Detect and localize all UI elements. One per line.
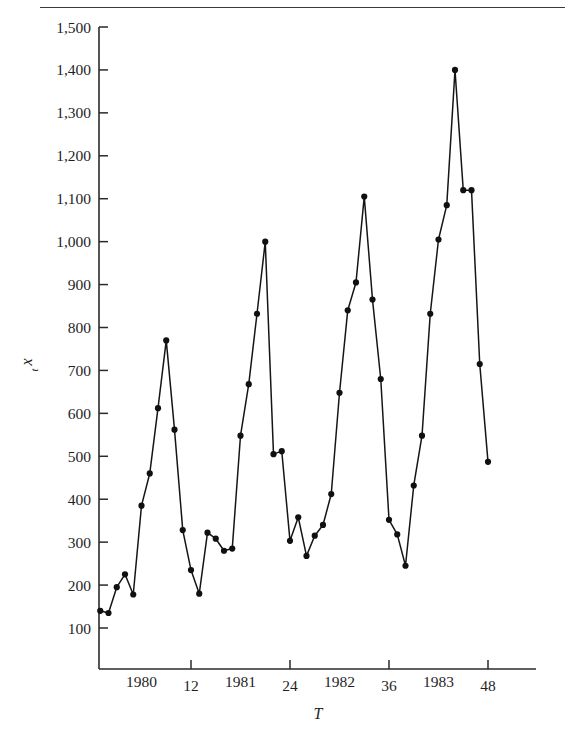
- data-point: [369, 297, 375, 303]
- data-point: [328, 491, 334, 497]
- data-point: [229, 545, 235, 551]
- y-tick-label: 1,100: [56, 190, 91, 207]
- y-tick-label: 700: [68, 362, 92, 379]
- data-point: [427, 311, 433, 317]
- y-tick-label: 1,000: [56, 233, 91, 250]
- data-point: [213, 536, 219, 542]
- data-point: [460, 187, 466, 193]
- x-axis-ticks: [191, 660, 488, 669]
- data-point: [221, 548, 227, 554]
- data-point: [419, 433, 425, 439]
- data-point: [378, 376, 384, 382]
- data-point: [320, 522, 326, 528]
- data-point: [485, 459, 491, 465]
- data-point: [188, 567, 194, 573]
- data-point: [386, 517, 392, 523]
- data-point: [402, 563, 408, 569]
- y-tick-label: 1,400: [56, 61, 91, 78]
- x-tick-label: 36: [381, 677, 397, 694]
- y-tick-label: 600: [68, 405, 92, 422]
- data-point: [435, 236, 441, 242]
- data-point: [147, 470, 153, 476]
- data-point: [155, 405, 161, 411]
- x-year-label: 1981: [225, 673, 256, 690]
- x-axis-title: T: [314, 705, 324, 722]
- data-point: [345, 307, 351, 313]
- data-point: [163, 337, 169, 343]
- data-point: [270, 451, 276, 457]
- data-point: [452, 67, 458, 73]
- y-tick-label: 200: [68, 577, 92, 594]
- data-point: [254, 311, 260, 317]
- data-point: [411, 482, 417, 488]
- y-axis-title-subscript: t: [29, 367, 40, 371]
- x-year-label: 1980: [126, 673, 157, 690]
- data-point: [353, 279, 359, 285]
- y-axis-title: x: [18, 358, 35, 366]
- x-year-label: 1983: [423, 673, 454, 690]
- y-tick-label: 1,200: [56, 147, 91, 164]
- data-point: [468, 187, 474, 193]
- data-point: [130, 591, 136, 597]
- data-point: [180, 527, 186, 533]
- x-year-label: 1982: [324, 673, 355, 690]
- y-tick-label: 500: [68, 448, 92, 465]
- data-point: [312, 533, 318, 539]
- y-tick-label: 1,500: [56, 19, 91, 36]
- y-tick-label: 800: [68, 319, 92, 336]
- data-point: [246, 381, 252, 387]
- y-tick-label: 900: [68, 276, 92, 293]
- data-point: [394, 531, 400, 537]
- data-point: [444, 202, 450, 208]
- y-tick-label: 100: [68, 620, 92, 637]
- data-point: [361, 193, 367, 199]
- data-point: [287, 538, 293, 544]
- data-point: [204, 530, 210, 536]
- data-point: [105, 610, 111, 616]
- y-axis-ticks: [99, 27, 108, 628]
- data-point: [336, 390, 342, 396]
- y-tick-label: 400: [68, 491, 92, 508]
- data-point: [122, 571, 128, 577]
- data-point: [237, 433, 243, 439]
- figure-container: 1002003004005006007008009001,0001,1001,2…: [0, 0, 565, 736]
- data-point: [303, 553, 309, 559]
- y-tick-label: 1,300: [56, 104, 91, 121]
- data-point: [114, 584, 120, 590]
- data-point: [138, 503, 144, 509]
- x-tick-label: 24: [282, 677, 298, 694]
- y-axis-tick-labels: 1002003004005006007008009001,0001,1001,2…: [56, 19, 91, 637]
- x-tick-label: 12: [183, 677, 199, 694]
- data-point: [196, 591, 202, 597]
- x-tick-label: 48: [480, 677, 496, 694]
- y-tick-label: 300: [68, 534, 92, 551]
- time-series-chart: 1002003004005006007008009001,0001,1001,2…: [0, 0, 565, 736]
- data-point: [279, 448, 285, 454]
- series-line: [100, 70, 488, 613]
- series-markers: [97, 67, 491, 616]
- data-point: [477, 361, 483, 367]
- data-point: [171, 427, 177, 433]
- data-point: [295, 514, 301, 520]
- data-point: [262, 239, 268, 245]
- data-point: [97, 608, 103, 614]
